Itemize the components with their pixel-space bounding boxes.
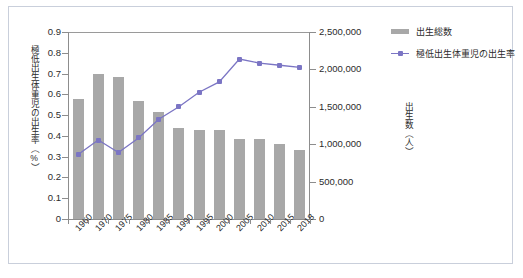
x-tick bbox=[310, 219, 311, 224]
right-tick bbox=[310, 32, 316, 33]
line-marker bbox=[237, 57, 242, 62]
right-tick-label: 1,000,000 bbox=[319, 138, 361, 149]
left-tick-label: 0.4 bbox=[23, 130, 61, 141]
line-marker bbox=[197, 90, 202, 95]
left-tick-label: 0.3 bbox=[23, 151, 61, 162]
left-tick-label: 0.5 bbox=[23, 109, 61, 120]
right-tick-label: 2,000,000 bbox=[319, 63, 361, 74]
right-tick bbox=[310, 144, 316, 145]
right-tick-label: 2,500,000 bbox=[319, 26, 361, 37]
line-marker bbox=[76, 152, 81, 157]
left-tick-label: 0.2 bbox=[23, 171, 61, 182]
right-tick bbox=[310, 107, 316, 108]
right-tick bbox=[310, 182, 316, 183]
legend-label-vlbw-rate: 極低出生体重児の出生率 bbox=[416, 47, 515, 60]
right-axis-title: 出生数（人） bbox=[399, 102, 412, 162]
line-marker bbox=[297, 65, 302, 70]
line-marker bbox=[96, 138, 101, 143]
line-marker bbox=[217, 79, 222, 84]
left-tick-label: 0.1 bbox=[23, 192, 61, 203]
line-marker bbox=[277, 63, 282, 68]
right-tick bbox=[310, 69, 316, 70]
bar-swatch-icon bbox=[391, 29, 409, 34]
legend-label-total-births: 出生総数 bbox=[416, 25, 452, 38]
left-tick-label: 0.6 bbox=[23, 88, 61, 99]
right-tick-label: 0 bbox=[319, 213, 324, 224]
right-tick-label: 1,500,000 bbox=[319, 101, 361, 112]
right-tick-label: 500,000 bbox=[319, 176, 353, 187]
left-tick-label: 0.9 bbox=[23, 26, 61, 37]
left-tick-label: 0 bbox=[23, 213, 61, 224]
line-marker bbox=[176, 104, 181, 109]
line-marker bbox=[116, 150, 121, 155]
line-marker-swatch-icon bbox=[391, 50, 409, 57]
left-tick-label: 0.8 bbox=[23, 47, 61, 58]
line-series-vlbw-rate bbox=[68, 32, 310, 220]
left-tick-label: 0.7 bbox=[23, 68, 61, 79]
legend-item-total-births: 出生総数 bbox=[391, 23, 515, 39]
line-marker bbox=[156, 117, 161, 122]
line-marker bbox=[257, 61, 262, 66]
legend-item-vlbw-rate: 極低出生体重児の出生率 bbox=[391, 45, 515, 61]
chart-legend: 出生総数 極低出生体重児の出生率 bbox=[391, 23, 515, 67]
chart-frame: 極低出生体重児の出生率（%） 出生数（人） 00.10.20.30.40.50.… bbox=[8, 6, 513, 264]
line-marker bbox=[136, 135, 141, 140]
